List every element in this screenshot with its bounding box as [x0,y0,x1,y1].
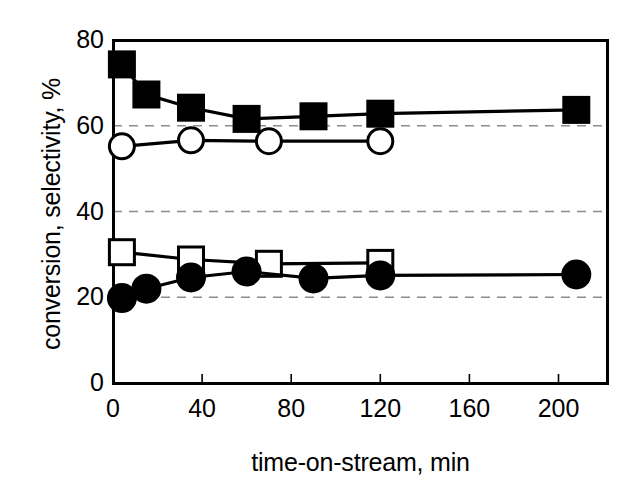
data-series-layer [108,51,590,312]
data-point-filled-square [301,103,327,129]
data-point-open-circle [179,128,204,153]
data-point-open-circle [109,134,134,159]
data-point-filled-circle [562,261,590,289]
data-point-filled-square [178,95,204,121]
data-point-filled-circle [177,264,205,292]
data-point-filled-circle [366,261,394,289]
series-line [122,140,380,146]
data-point-filled-circle [233,258,261,286]
data-point-open-circle [256,129,281,154]
data-point-filled-square [367,101,393,127]
data-point-filled-square [133,82,159,108]
data-point-open-circle [368,129,393,154]
plot-area [0,0,638,490]
data-point-filled-circle [300,264,328,292]
data-point-filled-square [109,51,135,77]
axis-ticks [202,374,558,383]
data-point-filled-circle [132,275,160,303]
data-point-filled-square [563,97,589,123]
data-point-filled-square [234,106,260,132]
data-point-open-square [109,240,134,265]
chart-figure: conversion, selectivity, % time-on-strea… [0,0,638,490]
series-filled-square [109,51,589,131]
